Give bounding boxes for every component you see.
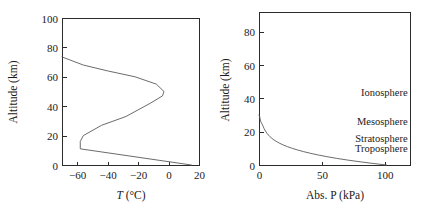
- y-axis-title: Altitude (km): [219, 58, 232, 121]
- layer-label-troposphere: Troposphere: [355, 143, 408, 154]
- x-tick-label: −40: [100, 169, 118, 181]
- x-tick-label: −60: [69, 169, 87, 181]
- pressure-profile-chart: 020406080 050100 IonosphereMesosphereStr…: [212, 0, 423, 215]
- layer-label-mesosphere: Mesosphere: [357, 116, 408, 127]
- x-axis-tick-labels: 050100: [257, 169, 394, 181]
- temperature-profile-chart: 020406080100 −60−40−20020 T (°C) Altitud…: [0, 0, 212, 215]
- layer-label-ionosphere: Ionosphere: [361, 87, 408, 98]
- y-tick-label: 80: [244, 26, 256, 38]
- y-tick-label: 80: [47, 42, 59, 54]
- y-tick-label: 60: [47, 71, 59, 83]
- x-tick-label: 0: [166, 169, 172, 181]
- y-tick-label: 60: [244, 60, 256, 72]
- pressure-profile-panel: 020406080 050100 IonosphereMesosphereStr…: [212, 0, 423, 215]
- x-tick-label: 100: [377, 169, 394, 181]
- y-tick-label: 40: [244, 93, 256, 105]
- x-tick-label: 50: [317, 169, 329, 181]
- temperature-curve: [62, 57, 191, 165]
- temperature-profile-panel: 020406080100 −60−40−20020 T (°C) Altitud…: [0, 0, 212, 215]
- y-tick-label: 20: [244, 126, 256, 138]
- y-axis-tick-labels: 020406080100: [42, 13, 59, 172]
- y-axis-ticks: [260, 32, 264, 165]
- x-tick-label: 0: [257, 169, 263, 181]
- x-tick-label: −20: [130, 169, 148, 181]
- plot-frame: [63, 19, 200, 166]
- y-tick-label: 100: [42, 13, 59, 25]
- y-tick-label: 20: [47, 130, 59, 142]
- y-tick-label: 0: [250, 160, 256, 172]
- atmosphere-layer-labels: IonosphereMesosphereStratosphereTroposph…: [355, 87, 408, 154]
- x-axis-title: T (°C): [116, 189, 145, 202]
- x-axis-title: Abs. P (kPa): [306, 189, 364, 202]
- atmosphere-figure: 020406080100 −60−40−20020 T (°C) Altitud…: [0, 0, 423, 215]
- x-axis-ticks: [260, 162, 386, 166]
- y-tick-label: 0: [53, 160, 59, 172]
- y-axis-tick-labels: 020406080: [244, 26, 256, 171]
- x-tick-label: 20: [194, 169, 206, 181]
- y-tick-label: 40: [47, 101, 59, 113]
- y-axis-ticks: [63, 19, 67, 166]
- x-axis-tick-labels: −60−40−20020: [69, 169, 205, 181]
- y-axis-title: Altitude (km): [7, 60, 20, 123]
